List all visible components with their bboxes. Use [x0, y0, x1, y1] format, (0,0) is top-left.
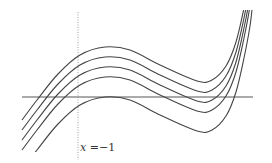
label-value: =−1 [86, 141, 115, 154]
curve-3 [22, 0, 253, 130]
curve-family [22, 0, 253, 163]
curve-2 [22, 0, 253, 140]
diagram-canvas [0, 0, 272, 163]
curve-4 [22, 0, 253, 120]
x-equals-label: x =−1 [80, 141, 115, 154]
curve-0 [22, 0, 253, 163]
